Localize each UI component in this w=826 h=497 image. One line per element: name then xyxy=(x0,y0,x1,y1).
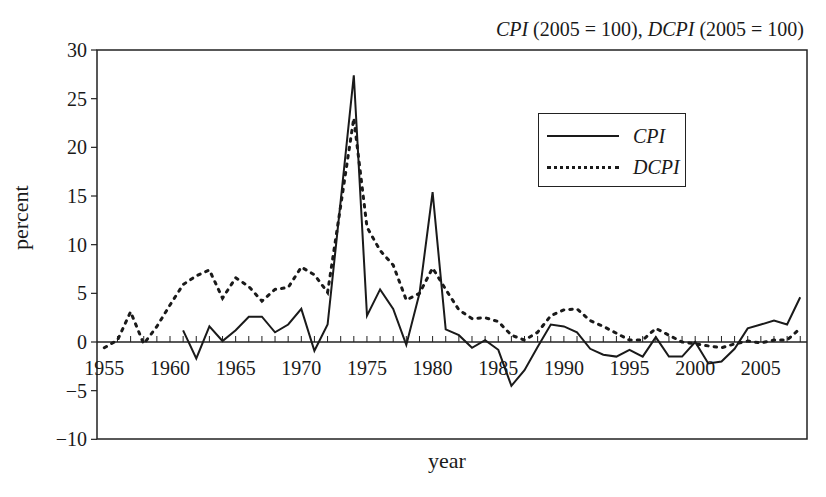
line-chart: −10−505101520253019551960196519701975198… xyxy=(0,0,826,497)
x-axis-label: year xyxy=(428,448,466,474)
x-tick-label: 2005 xyxy=(741,357,781,379)
y-tick-label: −5 xyxy=(66,380,87,402)
legend-label: CPI xyxy=(633,125,665,148)
y-tick-label: 15 xyxy=(67,185,87,207)
y-tick-label: 30 xyxy=(67,39,87,61)
y-tick-label: 25 xyxy=(67,88,87,110)
y-tick-label: 5 xyxy=(77,282,87,304)
x-tick-label: 1955 xyxy=(84,357,124,379)
legend-item-dcpi: DCPI xyxy=(547,155,680,179)
dcpi-series-line xyxy=(104,118,800,348)
x-tick-label: 1990 xyxy=(544,357,584,379)
x-tick-label: 1985 xyxy=(478,357,518,379)
dotted-line-icon xyxy=(547,166,619,169)
x-tick-label: 1970 xyxy=(281,357,321,379)
x-tick-label: 1995 xyxy=(610,357,650,379)
legend: CPI DCPI xyxy=(538,113,686,187)
x-tick-label: 1975 xyxy=(347,357,387,379)
y-tick-label: 20 xyxy=(67,136,87,158)
x-tick-label: 1965 xyxy=(216,357,256,379)
legend-label: DCPI xyxy=(633,156,680,179)
y-tick-label: −10 xyxy=(56,428,87,450)
legend-item-cpi: CPI xyxy=(547,124,665,148)
x-tick-label: 1960 xyxy=(150,357,190,379)
cpi-series-line xyxy=(183,75,800,386)
solid-line-icon xyxy=(547,135,619,137)
y-tick-label: 0 xyxy=(77,331,87,353)
y-tick-label: 10 xyxy=(67,234,87,256)
plot-frame xyxy=(97,50,807,439)
x-tick-label: 2000 xyxy=(675,357,715,379)
x-tick-label: 1980 xyxy=(413,357,453,379)
y-axis-label: percent xyxy=(8,185,34,250)
